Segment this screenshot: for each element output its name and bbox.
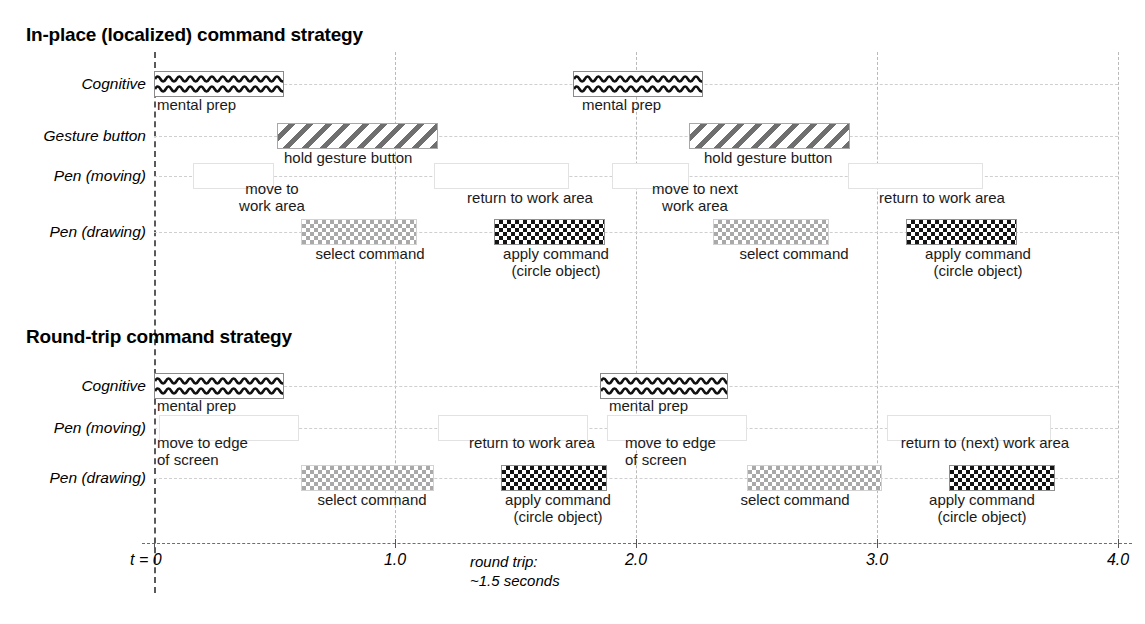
bar-check-dark-1-9 — [949, 465, 1055, 491]
row-label-pen-drawing: Pen (drawing) — [50, 223, 147, 241]
bar-check-light-1-6 — [301, 465, 434, 491]
bar-wavy-0-1 — [573, 71, 703, 97]
bar-stripe-0-2 — [277, 123, 438, 149]
axis-tick-label-0: t = 0 — [130, 551, 162, 569]
bar-caption: select command — [739, 245, 848, 262]
bar-moving-0-7 — [848, 163, 983, 189]
axis-tick-4 — [1118, 539, 1119, 548]
axis-tick-0 — [154, 539, 155, 548]
axis-tick-3 — [877, 539, 878, 548]
gridline-t-0.0 — [154, 52, 156, 593]
row-label-gesture-button: Gesture button — [43, 127, 146, 145]
round-trip-annotation: round trip: ~1.5 seconds — [470, 552, 560, 590]
axis-tick-label-1: 1.0 — [384, 551, 406, 569]
bar-moving-0-5 — [434, 163, 569, 189]
timeline-chart: In-place (localized) command strategyCog… — [0, 0, 1145, 624]
bar-caption: apply command (circle object) — [929, 491, 1035, 525]
bar-check-light-0-8 — [301, 219, 417, 245]
bar-caption: apply command (circle object) — [503, 245, 609, 279]
bar-caption: hold gesture button — [704, 149, 832, 166]
axis-tick-label-4: 4.0 — [1107, 551, 1129, 569]
bar-wavy-1-0 — [154, 373, 284, 399]
bar-caption: return to work area — [469, 434, 595, 451]
bar-caption: return to work area — [467, 189, 593, 206]
row-label-pen-moving: Pen (moving) — [54, 167, 146, 185]
bar-caption: move to work area — [239, 180, 305, 214]
row-label-pen-moving: Pen (moving) — [54, 419, 146, 437]
section-title-2: Round-trip command strategy — [26, 326, 292, 348]
bar-caption: select command — [315, 245, 424, 262]
bar-check-dark-0-11 — [906, 219, 1017, 245]
bar-caption: select command — [317, 491, 426, 508]
axis-tick-label-2: 2.0 — [625, 551, 647, 569]
bar-wavy-1-1 — [600, 373, 728, 399]
time-axis — [142, 543, 1132, 544]
bar-check-dark-1-7 — [501, 465, 607, 491]
bar-caption: move to edge of screen — [625, 434, 716, 468]
bar-caption: select command — [740, 491, 849, 508]
bar-caption: apply command (circle object) — [925, 245, 1031, 279]
section-title-1: In-place (localized) command strategy — [26, 24, 363, 46]
axis-tick-label-3: 3.0 — [866, 551, 888, 569]
row-label-pen-drawing: Pen (drawing) — [50, 469, 147, 487]
bar-caption: hold gesture button — [284, 149, 412, 166]
bar-caption: move to edge of screen — [157, 434, 248, 468]
bar-caption: mental prep — [609, 397, 688, 414]
bar-wavy-0-0 — [154, 71, 284, 97]
gridline-t-2.0 — [636, 52, 637, 543]
axis-tick-1 — [395, 539, 396, 548]
bar-check-dark-0-9 — [494, 219, 605, 245]
bar-caption: return to (next) work area — [901, 434, 1069, 451]
row-label-cognitive: Cognitive — [81, 377, 146, 395]
bar-check-light-0-10 — [713, 219, 829, 245]
row-label-cognitive: Cognitive — [81, 75, 146, 93]
gridline-t-4.0 — [1118, 52, 1119, 543]
bar-caption: mental prep — [157, 397, 236, 414]
bar-caption: apply command (circle object) — [505, 491, 611, 525]
bar-check-light-1-8 — [747, 465, 882, 491]
bar-caption: return to work area — [879, 189, 1005, 206]
bar-caption: mental prep — [157, 96, 236, 113]
bar-caption: move to next work area — [652, 180, 738, 214]
axis-tick-2 — [636, 539, 637, 548]
bar-stripe-0-3 — [689, 123, 850, 149]
bar-caption: mental prep — [582, 96, 661, 113]
